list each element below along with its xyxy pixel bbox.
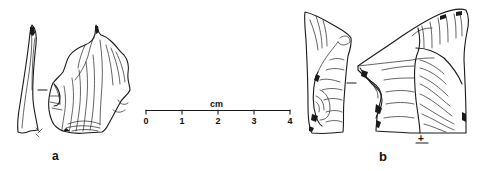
artifact-a-lateral-view bbox=[18, 25, 42, 137]
artifact-a-dorsal-view bbox=[49, 25, 130, 133]
artifact-b-dorsal-view bbox=[358, 9, 468, 133]
label-a: a bbox=[52, 149, 59, 163]
scale-unit-label: cm bbox=[210, 99, 223, 109]
artifact-b-lateral-view bbox=[305, 12, 352, 133]
scale-tick-label-3: 3 bbox=[252, 116, 257, 126]
scale-tick-label-2: 2 bbox=[216, 116, 221, 126]
artifact-a: a bbox=[18, 25, 130, 163]
percussion-mark-symbol: + bbox=[418, 133, 424, 144]
scale-bar: cm 0 1 2 3 4 bbox=[144, 99, 293, 126]
label-b: b bbox=[379, 149, 387, 164]
scale-tick-label-1: 1 bbox=[180, 116, 185, 126]
percussion-mark: + bbox=[416, 133, 428, 144]
artifact-b: + b bbox=[305, 9, 469, 164]
scale-tick-label-4: 4 bbox=[288, 116, 293, 126]
lithic-illustration: a cm 0 1 2 3 4 bbox=[0, 0, 479, 171]
scale-tick-label-0: 0 bbox=[144, 116, 149, 126]
